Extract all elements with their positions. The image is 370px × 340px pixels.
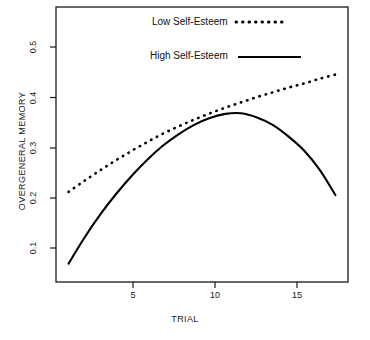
chart-figure: OVERGENERAL MEMORY TRIAL 0.5 0.4 0.3 0.2… bbox=[0, 0, 370, 340]
series-line-low-self-esteem bbox=[69, 75, 336, 192]
x-axis-ticks bbox=[133, 282, 297, 288]
series-line-high-self-esteem bbox=[69, 113, 336, 264]
plot-frame bbox=[56, 7, 348, 282]
y-axis-ticks bbox=[50, 47, 56, 248]
plot-area bbox=[0, 0, 370, 340]
